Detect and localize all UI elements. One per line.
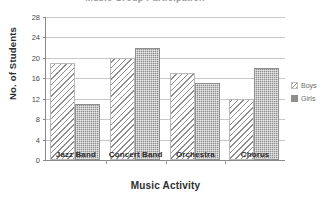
legend-item-boys[interactable]: Boys [291,80,331,91]
category-label: Jazz Band [46,150,106,159]
bar-girls [254,68,279,160]
y-tick-label: 4 [22,135,40,144]
x-tick-mark [225,160,226,164]
chart-legend: BoysGirls [291,80,331,106]
legend-swatch-icon [291,95,298,102]
y-tick-label: 24 [22,33,40,42]
bar-girls [135,48,160,160]
y-axis-title: No. of Students [7,9,18,119]
chart-title: Music Group Participation [0,0,290,3]
x-tick-mark [106,160,107,164]
x-tick-mark [166,160,167,164]
category-label: Concert Band [106,150,166,159]
plot-area [46,17,285,160]
bar-girls [195,83,220,160]
y-tick-label: 20 [22,53,40,62]
category-label: Chorus [225,150,285,159]
legend-swatch-icon [291,82,298,89]
y-tick-mark [43,160,46,161]
bar-group [166,17,226,160]
legend-label: Girls [301,95,315,102]
y-tick-label: 28 [22,13,40,22]
category-label: Orchestra [166,150,226,159]
y-tick-label: 16 [22,74,40,83]
y-tick-label: 12 [22,94,40,103]
bar-group [46,17,106,160]
bar-chart: Music Group Participation No. of Student… [0,0,331,206]
bar-boys [170,73,195,160]
bar-group [106,17,166,160]
legend-label: Boys [301,82,317,89]
legend-item-girls[interactable]: Girls [291,93,331,104]
y-tick-label: 8 [22,115,40,124]
x-axis-title: Music Activity [46,180,285,191]
bar-boys [110,58,135,160]
y-tick-label: 0 [22,156,40,165]
bar-boys [50,63,75,160]
bar-group [225,17,285,160]
